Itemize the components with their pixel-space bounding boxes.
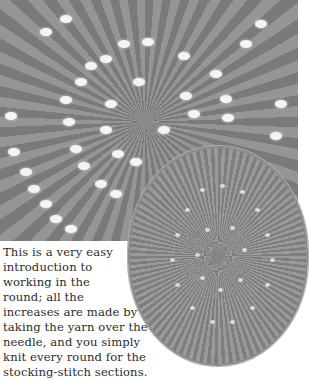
eyelet <box>220 95 232 103</box>
eyelet <box>133 78 145 86</box>
caption-text: This is a very easy introduction to work… <box>3 245 183 380</box>
eyelet <box>180 92 192 100</box>
eyelet <box>188 110 200 118</box>
eyelet <box>205 228 210 232</box>
eyelet <box>270 258 275 262</box>
eyelet <box>230 320 235 324</box>
eyelet <box>75 78 87 86</box>
eyelet <box>178 52 190 60</box>
eyelet <box>190 306 195 310</box>
eyelet <box>78 162 90 170</box>
eyelet <box>185 208 190 212</box>
eyelet <box>40 200 52 208</box>
eyelet <box>242 248 247 252</box>
eyelet <box>100 126 112 134</box>
eyelet <box>255 20 267 28</box>
eyelet <box>238 278 243 282</box>
caption-line: needle, and you simply <box>3 335 183 350</box>
eyelet <box>5 112 17 120</box>
eyelet <box>8 148 20 156</box>
eyelet <box>28 185 40 193</box>
eyelet <box>265 233 270 237</box>
eyelet <box>250 306 255 310</box>
caption-line: introduction to <box>3 260 183 275</box>
caption-line: taking the yarn over the <box>3 320 183 335</box>
eyelet <box>210 320 215 324</box>
eyelet <box>70 145 82 153</box>
eyelet <box>105 100 117 108</box>
eyelet <box>240 190 245 194</box>
eyelet <box>118 40 130 48</box>
eyelet <box>20 168 32 176</box>
eyelet <box>40 28 52 36</box>
eyelet <box>60 96 72 104</box>
eyelet <box>222 114 234 122</box>
eyelet <box>110 190 122 198</box>
eyelet <box>130 158 142 166</box>
eyelet <box>100 55 112 63</box>
caption-line: stocking-stitch sections. <box>3 365 183 380</box>
eyelet <box>65 225 77 233</box>
eyelet <box>210 70 222 78</box>
eyelet <box>220 184 225 188</box>
eyelet <box>85 62 97 70</box>
caption-line: working in the <box>3 275 183 290</box>
caption-line: increases are made by <box>3 305 183 320</box>
eyelet <box>50 215 62 223</box>
eyelet <box>230 226 235 230</box>
eyelet <box>200 276 205 280</box>
eyelet <box>195 253 200 257</box>
eyelet <box>275 100 287 108</box>
caption-line: round; all the <box>3 290 183 305</box>
eyelet <box>95 180 107 188</box>
eyelet <box>265 283 270 287</box>
eyelet <box>63 118 75 126</box>
eyelet <box>218 288 223 292</box>
eyelet <box>255 208 260 212</box>
eyelet <box>240 40 252 48</box>
caption-line: knit every round for the <box>3 350 183 365</box>
eyelet <box>60 15 72 23</box>
eyelet <box>142 38 154 46</box>
eyelet <box>175 233 180 237</box>
eyelet <box>158 126 170 134</box>
caption-line: This is a very easy <box>3 245 183 260</box>
eyelet <box>270 132 282 140</box>
eyelet <box>112 150 124 158</box>
eyelet <box>200 188 205 192</box>
